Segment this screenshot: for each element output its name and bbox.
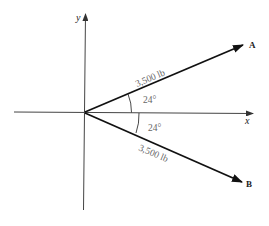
vector-b-label: B	[246, 179, 252, 189]
vector-b-arrow	[85, 113, 242, 182]
vector-a-arrow	[85, 45, 243, 112]
angle-arc-a	[128, 94, 132, 113]
y-axis-label: y	[75, 12, 81, 23]
x-axis-label: x	[244, 115, 250, 126]
angle-arc-b	[136, 113, 139, 133]
diagram-canvas: y x A B 3,500 lb 3,500 lb 24° 24°	[0, 0, 269, 226]
angle-b-label: 24°	[148, 123, 162, 133]
vector-a-label: A	[249, 40, 256, 50]
vector-a-magnitude: 3,500 lb	[134, 67, 167, 88]
x-axis	[14, 112, 253, 114]
force-vector-diagram: y x A B 3,500 lb 3,500 lb 24° 24°	[0, 0, 269, 226]
vector-b-magnitude: 3,500 lb	[137, 143, 170, 164]
angle-a-label: 24°	[143, 95, 157, 105]
